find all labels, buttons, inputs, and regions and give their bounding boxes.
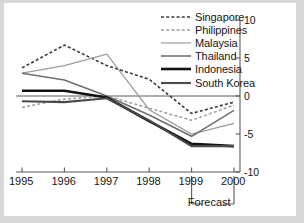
legend-label: Malaysia bbox=[192, 37, 238, 49]
x-tick-label: 1999 bbox=[179, 175, 203, 187]
legend-label: Singapore bbox=[192, 11, 244, 23]
legend-label: Thailand bbox=[192, 50, 236, 62]
legend-item-south-korea[interactable]: South Korea bbox=[160, 76, 264, 89]
legend-line-swatch-icon bbox=[160, 11, 192, 23]
y-tick-label: -10 bbox=[244, 166, 259, 178]
legend-line-swatch-icon bbox=[160, 24, 192, 36]
legend-label: Philippines bbox=[192, 24, 247, 36]
legend-line-swatch-icon bbox=[160, 63, 192, 75]
series-line-indonesia bbox=[22, 91, 234, 146]
chart-card: SingaporePhilippinesMalaysiaThailandIndo… bbox=[4, 3, 296, 216]
forecast-annotation-label: Forecast bbox=[188, 196, 231, 208]
legend-label: South Korea bbox=[192, 77, 255, 89]
x-tick-label: 1998 bbox=[136, 175, 160, 187]
legend-label: Indonesia bbox=[192, 63, 242, 75]
y-tick-label: 5 bbox=[244, 52, 250, 64]
y-tick-label: 10 bbox=[244, 14, 256, 26]
y-tick-label: -5 bbox=[244, 128, 253, 140]
y-tick-label: 0 bbox=[244, 90, 250, 102]
legend-line-swatch-icon bbox=[160, 50, 192, 62]
chart-screenshot: SingaporePhilippinesMalaysiaThailandIndo… bbox=[0, 0, 304, 223]
legend-item-indonesia[interactable]: Indonesia bbox=[160, 63, 264, 76]
legend-line-swatch-icon bbox=[160, 77, 192, 89]
legend-line-swatch-icon bbox=[160, 37, 192, 49]
x-tick-label: 1996 bbox=[51, 175, 75, 187]
legend-item-malaysia[interactable]: Malaysia bbox=[160, 36, 264, 49]
x-tick-label: 1995 bbox=[9, 175, 33, 187]
x-tick-label: 1997 bbox=[94, 175, 118, 187]
x-tick-label: 2000 bbox=[221, 175, 245, 187]
